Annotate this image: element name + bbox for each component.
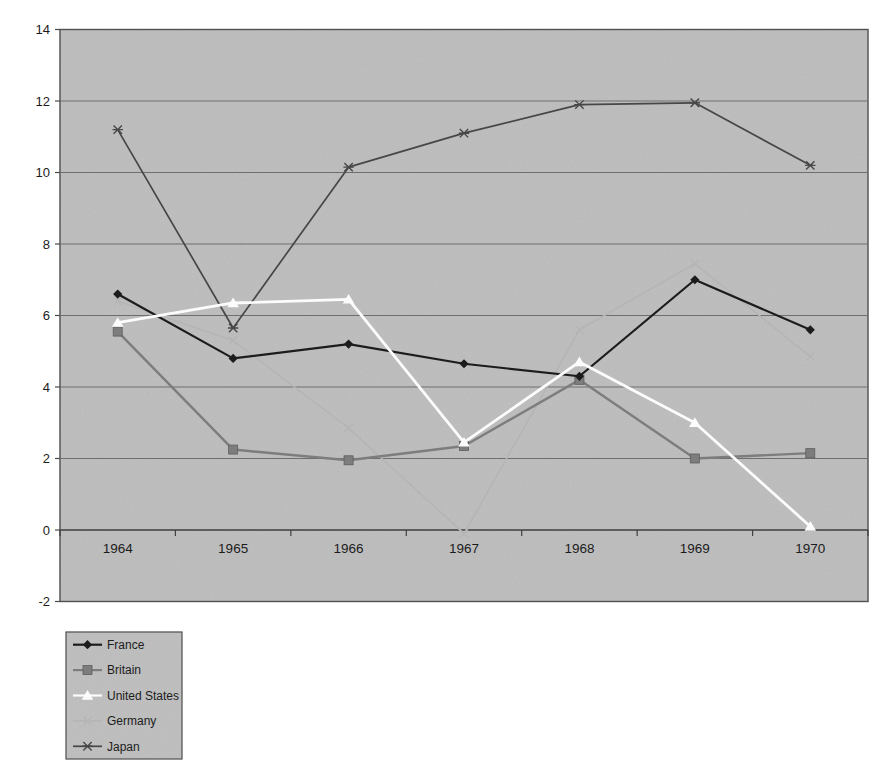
y-axis-label: 12 [36, 94, 50, 109]
legend-label-germany: Germany [107, 714, 156, 728]
y-axis-label: 4 [43, 380, 50, 395]
x-axis-label: 1969 [680, 541, 710, 556]
legend-label-france: France [107, 638, 145, 652]
legend-label-united-states: United States [107, 689, 179, 703]
legend-label-japan: Japan [107, 740, 140, 754]
marker-britain-1966 [344, 456, 353, 465]
legend-marker-britain [83, 666, 92, 675]
chart-canvas: 14121086420-2196419651966196719681969197… [0, 0, 889, 772]
y-axis-label: 6 [43, 308, 50, 323]
x-axis-label: 1970 [795, 541, 825, 556]
chart-figure: 14121086420-2196419651966196719681969197… [0, 0, 889, 772]
y-axis-label: 8 [43, 237, 50, 252]
x-axis-label: 1966 [334, 541, 364, 556]
y-axis-label: 0 [43, 523, 50, 538]
legend-label-britain: Britain [107, 663, 141, 677]
marker-britain-1965 [229, 445, 238, 454]
y-axis-label: 2 [43, 451, 50, 466]
x-axis-label: 1965 [218, 541, 248, 556]
x-axis-label: 1968 [564, 541, 594, 556]
x-axis-label: 1967 [449, 541, 479, 556]
x-axis-label: 1964 [103, 541, 134, 556]
y-axis-label: -2 [38, 594, 50, 609]
legend: FranceBritainUnited StatesGermanyJapan [66, 632, 182, 759]
y-axis: 14121086420-2 [36, 22, 60, 609]
marker-britain-1969 [690, 454, 699, 463]
marker-britain-1964 [113, 327, 122, 336]
marker-britain-1970 [806, 449, 815, 458]
y-axis-label: 14 [36, 22, 50, 37]
y-axis-label: 10 [36, 165, 50, 180]
